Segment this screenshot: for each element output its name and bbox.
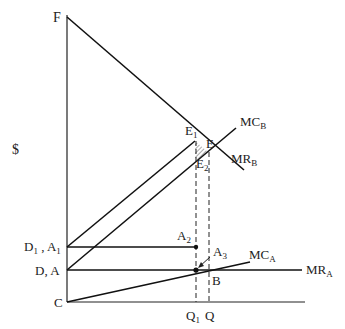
mcb-label: MCB (240, 115, 266, 131)
e2-main: E (196, 156, 204, 171)
da-label: D, A (35, 264, 60, 277)
a3-point (193, 267, 198, 272)
mcb-main: MC (240, 114, 260, 129)
q-label: Q (205, 309, 214, 322)
y-axis-label: $ (12, 143, 19, 157)
point-a2-label: A2 (177, 229, 191, 245)
a2-main: A (177, 228, 186, 243)
mrb-sub: B (251, 158, 257, 168)
mca-curve (67, 262, 250, 302)
point-c-label: C (54, 296, 63, 309)
mcb-upper-line (67, 141, 195, 247)
point-f-label: F (53, 11, 61, 25)
q1-sub: 1 (195, 315, 200, 325)
q1-label: Q1 (186, 309, 200, 325)
point-b-label: B (212, 274, 221, 287)
a1-sub: 1 (56, 246, 61, 256)
a3-main: A (213, 244, 222, 259)
a1-main: A (47, 239, 56, 254)
e1-main: E (185, 123, 193, 138)
mrb-main: MR (231, 151, 251, 166)
mca-label: MCA (249, 248, 276, 264)
diagram-lines (0, 0, 345, 329)
a2-point (194, 245, 198, 249)
e1-sub: 1 (193, 130, 198, 140)
mrb-label: MRB (231, 152, 257, 168)
mra-main: MR (306, 262, 326, 277)
point-e-label: E (206, 137, 214, 150)
economics-diagram: $ F E1 E E2 MCB MRB D1 , A1 D, A C A2 A3… (0, 0, 345, 329)
d1-main: D (24, 239, 33, 254)
q1-main: Q (186, 308, 195, 323)
mrb-curve (67, 17, 244, 170)
e2-sub: 2 (204, 163, 209, 173)
d1a1-sep: , (38, 239, 47, 254)
point-a3-label: A3 (213, 245, 227, 261)
point-e1-label: E1 (185, 124, 197, 140)
d1a1-label: D1 , A1 (24, 240, 61, 256)
mca-sub: A (269, 254, 276, 264)
mra-sub: A (326, 269, 333, 279)
a2-sub: 2 (186, 235, 191, 245)
point-e2-label: E2 (196, 157, 208, 173)
mca-main: MC (249, 247, 269, 262)
a3-sub: 3 (222, 251, 227, 261)
mra-label: MRA (306, 263, 333, 279)
mcb-sub: B (260, 121, 266, 131)
